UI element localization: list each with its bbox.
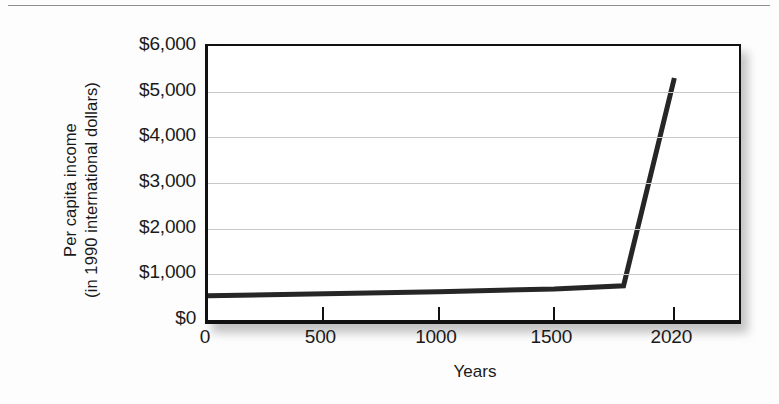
x-axis-tick-label: 1500 (491, 326, 611, 348)
x-axis-tick-mark (553, 307, 555, 320)
x-axis-title: Years (385, 362, 565, 382)
gridline (208, 92, 739, 93)
gridline (208, 229, 739, 230)
x-axis-tick-mark (673, 307, 675, 320)
gridline (208, 183, 739, 184)
x-axis-tick-label: 1000 (376, 326, 496, 348)
gridline (208, 137, 739, 138)
chart-figure: Per capita income (in 1990 international… (0, 0, 779, 404)
x-axis-tick-mark (438, 307, 440, 320)
x-axis-tick-label: 0 (145, 326, 265, 348)
x-axis-tick-label: 2020 (611, 326, 731, 348)
x-axis-tick-label: 500 (260, 326, 380, 348)
plot-area (205, 44, 741, 324)
gridline (208, 274, 739, 275)
x-axis-tick-mark (322, 307, 324, 320)
